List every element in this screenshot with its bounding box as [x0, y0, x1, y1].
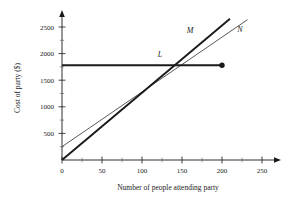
- y-tick-label-1000: 1000: [40, 103, 55, 111]
- x-tick-label-200: 200: [217, 167, 228, 175]
- y-tick-label-2000: 2000: [40, 50, 55, 58]
- y-axis-title: Cost of party ($): [13, 63, 22, 113]
- series-label-n: N: [236, 25, 243, 34]
- axis-group: [59, 10, 281, 163]
- series-label-m: M: [186, 26, 195, 35]
- series-l-endpoint-marker: [219, 63, 224, 68]
- y-tick-label-1500: 1500: [40, 77, 55, 85]
- x-tick-label-250: 250: [257, 167, 268, 175]
- y-tick-label-500: 500: [44, 130, 55, 138]
- y-axis-arrow-icon: [59, 10, 65, 17]
- x-tick-label-100: 100: [137, 167, 148, 175]
- y-tick-label-2500: 2500: [40, 24, 55, 32]
- x-tick-label-0: 0: [60, 167, 64, 175]
- x-axis-title: Number of people attending party: [117, 183, 219, 192]
- cost-of-party-chart: 500 1000 1500 2000 2500 0 50 100 150 200…: [0, 0, 288, 198]
- x-tick-label-150: 150: [177, 167, 188, 175]
- series-line-m: [62, 19, 230, 160]
- series-label-l: L: [157, 50, 163, 59]
- x-axis-arrow-icon: [274, 157, 281, 162]
- x-tick-label-50: 50: [99, 167, 107, 175]
- chart-container: 500 1000 1500 2000 2500 0 50 100 150 200…: [0, 0, 288, 198]
